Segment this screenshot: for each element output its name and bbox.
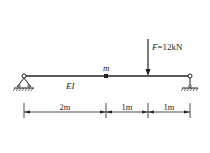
beam-stiffness-label: EI [65,81,75,91]
dimension-label-2: 1m [122,102,133,112]
force-arrow-icon [146,39,151,76]
dimension-label-3: 1m [164,102,175,112]
force-label: F=12kN [151,42,183,52]
mass-label: m [103,63,110,73]
dimension-label-1: 2m [60,102,71,112]
mass-point-icon [104,74,108,78]
beam-diagram: m EI F=12kN 2m 1m 1m [0,0,210,153]
